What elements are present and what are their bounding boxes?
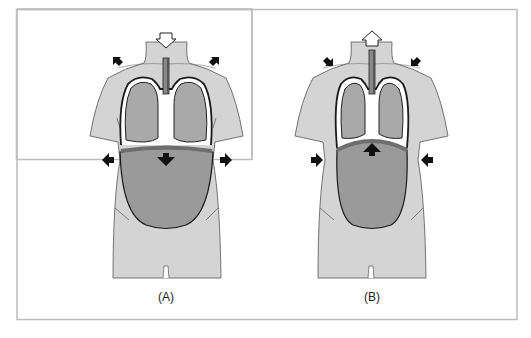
figure-panels xyxy=(0,0,531,338)
left-lung-a xyxy=(125,82,158,142)
right-lung-a xyxy=(174,82,207,142)
figure-frame-real xyxy=(17,10,517,320)
contract-arrow-ul-icon xyxy=(323,57,333,66)
expand-arrow-ur-icon xyxy=(209,57,219,66)
right-lung-b xyxy=(379,83,403,138)
expand-arrow-right-icon xyxy=(220,153,232,167)
panel-b-caption: (B) xyxy=(352,290,392,304)
contract-arrow-ur-icon xyxy=(411,57,421,66)
contract-arrow-right-icon xyxy=(421,153,433,167)
expand-arrow-left-icon xyxy=(102,153,114,167)
panel-a-caption: (A) xyxy=(146,290,186,304)
panel-a xyxy=(90,33,243,278)
panel-b xyxy=(295,31,448,278)
left-lung-b xyxy=(341,83,365,138)
leg-gap-a xyxy=(163,266,169,278)
contract-arrow-left-icon xyxy=(311,153,323,167)
expand-arrow-ul-icon xyxy=(113,57,123,66)
leg-gap-b xyxy=(368,266,374,278)
